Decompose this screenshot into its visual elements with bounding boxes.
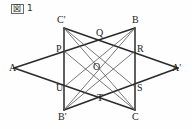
point-label-bp: B'	[58, 112, 66, 122]
point-label-p: P	[56, 44, 62, 54]
point-label-q: Q	[96, 28, 103, 38]
point-label-t: T	[97, 93, 103, 103]
point-label-c: C	[132, 112, 139, 122]
seg-A-B	[14, 28, 135, 68]
point-label-cp: C'	[57, 15, 65, 25]
point-label-o: O	[93, 62, 100, 72]
point-label-u: U	[56, 83, 63, 93]
seg-Ap-Bp	[64, 68, 178, 110]
point-label-a: A	[9, 63, 16, 73]
point-label-b: B	[132, 15, 139, 25]
figure-container: 図 1 AA'BB'CC'PQRSTUO	[0, 0, 192, 129]
point-label-s: S	[137, 83, 143, 93]
point-label-r: R	[137, 44, 144, 54]
point-label-ap: A'	[172, 63, 181, 73]
